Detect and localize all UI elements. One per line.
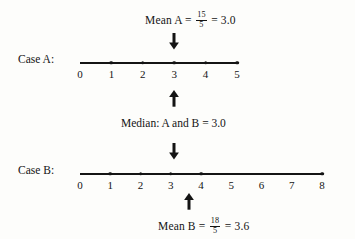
mean-a-prefix: Mean A = <box>145 14 195 26</box>
case-b-tick-label: 2 <box>138 180 144 191</box>
case-a-data-point <box>204 61 208 65</box>
arrow-down-mean-a-icon <box>169 33 180 50</box>
mean-a-annotation: Mean A = 155 = 3.0 <box>145 11 236 31</box>
mean-b-prefix: Mean B = <box>158 220 208 232</box>
case-a-data-point <box>172 61 176 65</box>
case-b-data-point <box>108 172 112 176</box>
median-annotation: Median: A and B = 3.0 <box>121 118 226 130</box>
case-a-tick-label: 1 <box>109 69 115 80</box>
case-b-tick-label: 7 <box>289 180 295 191</box>
case-b-tick-label: 5 <box>229 180 235 191</box>
case-a-tick-label: 0 <box>77 69 83 80</box>
case-b-tick-label: 6 <box>259 180 265 191</box>
case-a-tick-label: 2 <box>140 69 146 80</box>
mean-b-denominator: 5 <box>210 227 221 236</box>
mean-a-denominator: 5 <box>196 21 207 30</box>
arrow-up-median-to-a-icon <box>169 90 180 107</box>
arrow-down-median-to-b-icon <box>169 143 180 160</box>
case-a-label: Case A: <box>18 54 54 66</box>
case-a-tick-label: 3 <box>171 69 177 80</box>
case-b-data-point <box>199 172 203 176</box>
mean-b-fraction: 185 <box>210 217 221 237</box>
case-a-tick-label: 5 <box>234 69 240 80</box>
case-b-tick-label: 8 <box>319 180 325 191</box>
case-a-data-point <box>110 61 114 65</box>
case-b-tick-label: 3 <box>168 180 174 191</box>
mean-a-suffix: = 3.0 <box>208 14 236 26</box>
case-b-tick-label: 1 <box>108 180 114 191</box>
case-a-data-point <box>235 61 239 65</box>
arrow-up-mean-b-icon <box>184 193 195 210</box>
case-a-axis-line <box>80 62 238 64</box>
case-b-data-point <box>169 172 173 176</box>
case-b-tick-label: 0 <box>77 180 83 191</box>
case-b-data-point <box>139 172 143 176</box>
case-b-label: Case B: <box>18 165 54 177</box>
case-a-data-point <box>141 61 145 65</box>
case-b-data-point <box>320 172 324 176</box>
mean-a-fraction: 155 <box>196 11 207 31</box>
statistics-figure: Mean A = 155 = 3.0 Case A: 0 1 2 3 4 5 M… <box>0 0 355 239</box>
case-a-tick-label: 4 <box>203 69 209 80</box>
mean-b-suffix: = 3.6 <box>222 220 250 232</box>
case-b-tick-label: 4 <box>198 180 204 191</box>
mean-b-annotation: Mean B = 185 = 3.6 <box>158 217 249 237</box>
